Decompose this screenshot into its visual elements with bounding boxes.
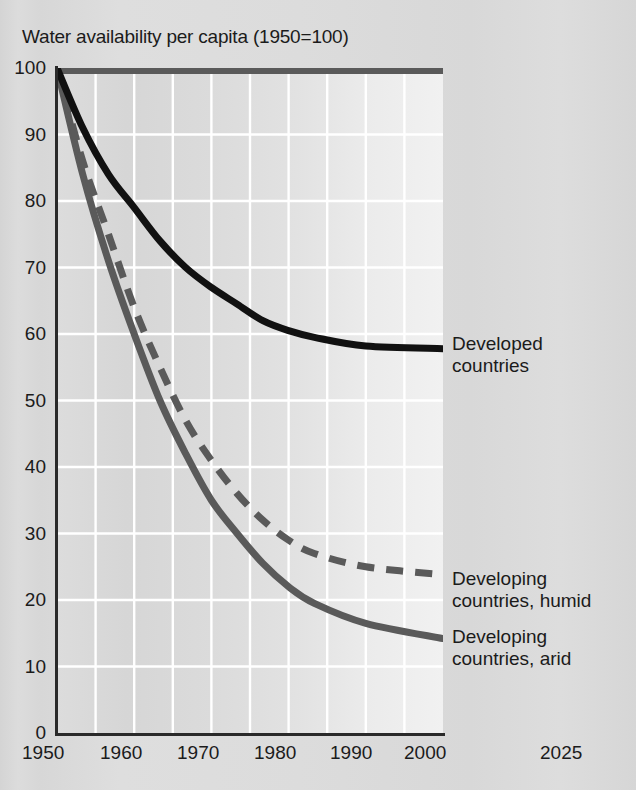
- curve-developed: [57, 68, 443, 349]
- series-label-humid-line1: Developing: [452, 568, 591, 590]
- series-label-developed-line1: Developed: [452, 333, 543, 355]
- x-tick-label: 1980: [254, 742, 296, 764]
- y-tick-label: 10: [0, 656, 52, 678]
- series-label-developing-humid: Developing countries, humid: [452, 568, 591, 613]
- x-tick-label: 1960: [100, 742, 142, 764]
- series-label-developing-arid: Developing countries, arid: [452, 626, 571, 671]
- x-tick-label: 2025: [540, 742, 582, 764]
- y-tick-label: 20: [0, 589, 52, 611]
- x-tick-label: 1990: [330, 742, 372, 764]
- y-tick-label: 60: [0, 323, 52, 345]
- curve-developing-arid: [57, 68, 443, 639]
- y-tick-label: 70: [0, 257, 52, 279]
- series-label-arid-line1: Developing: [452, 626, 571, 648]
- page-title: Water availability per capita (1950=100): [22, 26, 349, 48]
- series-label-developed-line2: countries: [452, 355, 543, 377]
- y-tick-label: 40: [0, 456, 52, 478]
- x-axis-line: [55, 733, 445, 736]
- y-axis-line: [55, 66, 58, 736]
- series-label-arid-line2: countries, arid: [452, 648, 571, 670]
- series-label-developed: Developed countries: [452, 333, 543, 378]
- y-tick-label: 90: [0, 124, 52, 146]
- y-tick-label: 50: [0, 390, 52, 412]
- data-curves: [57, 68, 443, 733]
- x-tick-label: 2000: [404, 742, 446, 764]
- y-tick-label: 100: [0, 57, 52, 79]
- series-label-humid-line2: countries, humid: [452, 590, 591, 612]
- curve-developing-humid: [57, 68, 443, 575]
- x-tick-label: 1950: [22, 742, 64, 764]
- y-tick-label: 30: [0, 523, 52, 545]
- plot-area: [57, 68, 443, 733]
- y-axis-tick-labels: 100 90 80 70 60 50 40 30 20 10 0: [0, 0, 52, 790]
- y-tick-label: 80: [0, 190, 52, 212]
- y-tick-label: 0: [0, 722, 52, 744]
- x-tick-label: 1970: [177, 742, 219, 764]
